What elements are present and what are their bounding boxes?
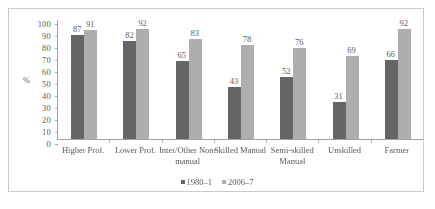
x-tick-label: Unskilled bbox=[314, 145, 374, 156]
y-tick-label: 20 bbox=[42, 116, 51, 124]
bar-value-label: 91 bbox=[79, 20, 101, 29]
bar-value-label: 92 bbox=[393, 19, 415, 28]
bar-group: 3169 bbox=[333, 19, 359, 139]
x-tick-mark bbox=[214, 140, 215, 143]
bar bbox=[176, 61, 189, 139]
bar-value-label: 78 bbox=[236, 35, 258, 44]
x-tick-label: Semi-skilled Manual bbox=[262, 145, 322, 166]
legend-item[interactable]: 2006–7 bbox=[222, 177, 254, 187]
bar bbox=[241, 45, 254, 139]
x-axis: Higher Prof.Lower Prof.Inter/Other Non-m… bbox=[57, 143, 423, 169]
bar bbox=[346, 56, 359, 139]
bar bbox=[84, 30, 97, 139]
bar bbox=[123, 41, 136, 139]
x-tick-label: Skilled Manual bbox=[210, 145, 270, 156]
x-tick-mark bbox=[371, 140, 372, 143]
x-tick-mark bbox=[266, 140, 267, 143]
bar bbox=[71, 35, 84, 139]
bar-group: 6692 bbox=[385, 19, 411, 139]
bar bbox=[333, 102, 346, 139]
bar-group: 8791 bbox=[71, 19, 97, 139]
bar-value-label: 83 bbox=[184, 29, 206, 38]
x-tick-mark bbox=[162, 140, 163, 143]
bar-group: 8292 bbox=[123, 19, 149, 139]
x-tick-label: Farmer bbox=[367, 145, 427, 156]
figure-frame: 1009080706050403020100 % 879182926583437… bbox=[8, 8, 424, 192]
y-tick-label: 100 bbox=[38, 20, 51, 28]
bar bbox=[136, 29, 149, 139]
y-tick-label: 70 bbox=[42, 56, 51, 64]
y-tick-label: 10 bbox=[42, 128, 51, 136]
x-tick-label: Higher Prof. bbox=[53, 145, 113, 156]
bar-group: 4378 bbox=[228, 19, 254, 139]
legend-swatch bbox=[222, 180, 226, 184]
bar bbox=[189, 39, 202, 139]
y-tick-label: 60 bbox=[42, 68, 51, 76]
x-tick-mark bbox=[318, 140, 319, 143]
y-tick-label: 40 bbox=[42, 92, 51, 100]
legend-swatch bbox=[181, 180, 185, 184]
bar-group: 6583 bbox=[176, 19, 202, 139]
y-tick-label: 50 bbox=[42, 80, 51, 88]
x-tick-mark bbox=[109, 140, 110, 143]
chart-legend: 1980–12006–7 bbox=[9, 177, 425, 187]
x-tick-label: Lower Prof. bbox=[105, 145, 165, 156]
y-axis: 1009080706050403020100 bbox=[15, 13, 55, 147]
y-tick-label: 90 bbox=[42, 32, 51, 40]
y-tick-label: 80 bbox=[42, 44, 51, 52]
bar-group: 5276 bbox=[280, 19, 306, 139]
bar bbox=[228, 87, 241, 139]
x-tick-label: Inter/Other Non-manual bbox=[158, 145, 218, 166]
plot-area: 8791829265834378527631696692 bbox=[57, 20, 423, 140]
bar-value-label: 69 bbox=[341, 46, 363, 55]
bar-value-label: 76 bbox=[288, 38, 310, 47]
bar bbox=[398, 29, 411, 139]
bar bbox=[385, 60, 398, 139]
bar bbox=[293, 48, 306, 139]
y-tick-label: 30 bbox=[42, 104, 51, 112]
bar bbox=[280, 77, 293, 139]
legend-item[interactable]: 1980–1 bbox=[181, 177, 213, 187]
y-tick-label: 0 bbox=[47, 140, 51, 148]
bar-value-label: 92 bbox=[131, 19, 153, 28]
legend-label: 1980–1 bbox=[187, 177, 213, 187]
y-axis-title: % bbox=[23, 75, 30, 85]
legend-label: 2006–7 bbox=[228, 177, 254, 187]
